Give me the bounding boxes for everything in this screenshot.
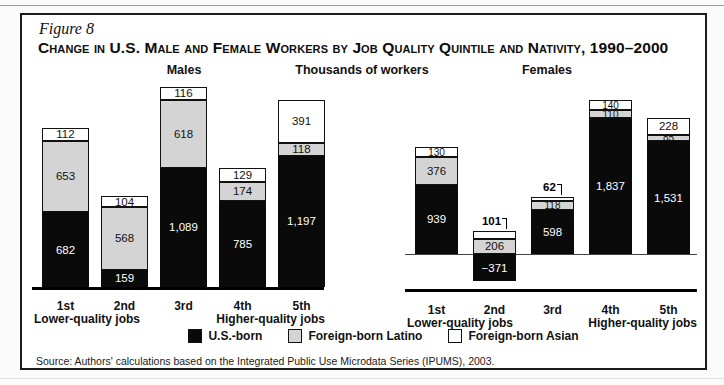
bar-value-label: 112 [42,128,89,140]
x-tick-label: 2nd [465,303,524,317]
x-tick-label: 4th [211,299,274,313]
chart-plot-area: 6826531121st1595681042nd1,0896181163rd78… [22,15,705,368]
legend-item-foreign-born-latino: Foreign-born Latino [288,329,422,343]
x-tick-label: 3rd [523,303,582,317]
axis-note-lower-quality-females: Lower-quality jobs [407,316,513,330]
scan-artifact-bottom-line [0,378,724,379]
bar-value-label: 129 [219,168,266,182]
bar-segment-foreign-born-asian [473,231,516,238]
bar-value-label: −371 [473,254,516,281]
bar-value-label: 1,089 [160,168,207,287]
figure-box: Figure 8 Change in U.S. Male and Female … [20,13,707,370]
x-tick-label: 1st [407,303,466,317]
bar-value-label-outside: 62 [525,181,580,195]
legend-label-us-born: U.S.-born [208,329,262,343]
legend-item-us-born: U.S.-born [188,329,262,343]
bar-value-label: 130 [415,147,458,157]
bar-value-label: 653 [42,141,89,213]
bar-value-label: 116 [160,87,207,100]
bar-value-label-outside: 101 [467,215,522,229]
x-tick-label: 3rd [152,299,215,313]
legend-label-foreign-born-asian: Foreign-born Asian [468,329,578,343]
bar-value-label: 568 [101,207,148,269]
bar-value-label: 1,531 [647,141,690,254]
bar-value-text: 101 [482,215,501,227]
bar-value-label: 85 [647,135,690,141]
bar-segment-foreign-born-asian [531,197,574,202]
x-tick-label: 2nd [93,299,156,313]
bar-value-text: 62 [543,181,556,193]
callout-bracket [557,184,562,195]
x-tick-label: 5th [639,303,698,317]
bar-value-label: 118 [278,143,325,156]
legend-swatch-us-born [188,329,202,343]
bar-value-label: 598 [531,210,574,254]
scan-artifact-top-line [0,5,724,6]
x-axis-line-females [405,289,697,292]
zero-line-females [405,254,697,255]
bar-value-label: 391 [278,100,325,143]
source-note: Source: Authors' calculations based on t… [36,355,686,367]
x-tick-label: 5th [270,299,333,313]
bar-value-label: 110 [589,110,632,118]
legend: U.S.-born Foreign-born Latino Foreign-bo… [62,329,705,343]
axis-note-higher-quality-females: Higher-quality jobs [547,316,697,330]
bar-value-label: 118 [531,201,574,210]
legend-swatch-foreign-born-asian [448,329,462,343]
axis-note-higher-quality-males: Higher-quality jobs [175,312,325,326]
legend-label-foreign-born-latino: Foreign-born Latino [308,329,422,343]
axis-note-lower-quality-males: Lower-quality jobs [34,312,140,326]
x-tick-label: 1st [34,299,97,313]
bar-value-label: 376 [415,157,458,185]
bar-value-label: 1,197 [278,156,325,287]
bar-value-label: 228 [647,118,690,135]
bar-value-label: 206 [473,239,516,254]
bar-value-label: 1,837 [589,118,632,254]
bar-value-label: 159 [101,270,148,287]
x-tick-label: 4th [581,303,640,317]
legend-item-foreign-born-asian: Foreign-born Asian [448,329,578,343]
bar-value-label: 785 [219,201,266,287]
bar-value-label: 682 [42,212,89,287]
bar-value-label: 140 [589,100,632,110]
x-axis-line-males [32,287,324,290]
bar-value-label: 939 [415,185,458,254]
legend-swatch-foreign-born-latino [288,329,302,343]
bar-value-label: 104 [101,196,148,207]
bar-value-label: 618 [160,100,207,168]
callout-bracket [502,218,507,229]
bar-value-label: 174 [219,182,266,201]
